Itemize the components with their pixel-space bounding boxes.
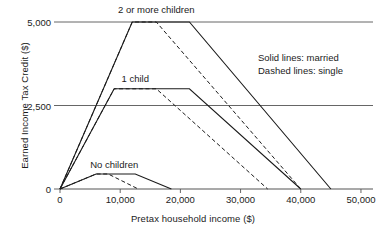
x-tick-label: 0: [57, 194, 62, 205]
y-tick-label: 2,500: [0, 100, 51, 111]
series-line: [60, 174, 171, 189]
x-axis-tick-marks: [60, 189, 361, 193]
chart-legend: Solid lines: married Dashed lines: singl…: [258, 52, 343, 77]
series-annotation-label: No children: [90, 159, 138, 170]
x-tick-label: 50,000: [346, 194, 375, 205]
legend-entry-married: Solid lines: married: [258, 52, 343, 65]
series-line: [60, 89, 268, 189]
y-tick-label: 5,000: [0, 17, 51, 28]
x-tick-label: 40,000: [286, 194, 315, 205]
x-tick-label: 20,000: [166, 194, 195, 205]
series-line: [60, 174, 138, 189]
x-tick-label: 30,000: [226, 194, 255, 205]
x-axis-title: Pretax household income ($): [0, 213, 386, 224]
eitc-chart-figure: Pretax household income ($) Earned Incom…: [0, 0, 386, 230]
y-axis-tick-marks: [54, 22, 60, 189]
series-annotation-label: 2 or more children: [118, 4, 195, 15]
series-annotation-label: 1 child: [122, 73, 149, 84]
y-tick-label: 0: [0, 184, 51, 195]
legend-entry-single: Dashed lines: single: [258, 65, 343, 78]
x-tick-label: 10,000: [106, 194, 135, 205]
